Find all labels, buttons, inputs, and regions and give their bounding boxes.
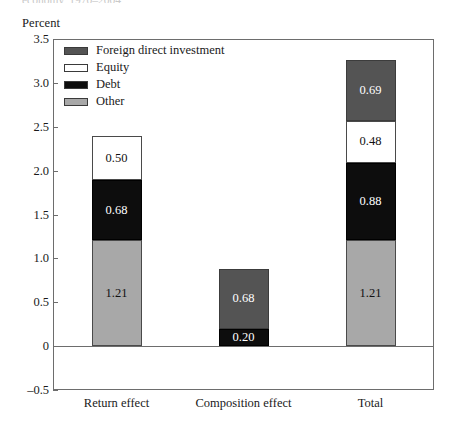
y-axis-tick-label: 1.0 [13,251,49,266]
bar-segment-debt[interactable]: 0.68 [92,180,142,240]
bar-segment-fdi[interactable]: 0.69 [346,60,396,121]
bar-segment-debt[interactable]: 0.20 [219,329,269,347]
legend-swatch-equity [64,64,88,72]
chart-legend: Foreign direct investmentEquityDebtOther [64,42,224,110]
legend-item[interactable]: Foreign direct investment [64,42,224,59]
bar-stack[interactable]: 0.200.68 [219,39,269,390]
legend-swatch-fdi [64,47,88,55]
y-axis-tick-label: 3.5 [13,32,49,47]
legend-item[interactable]: Debt [64,76,224,93]
bar-segment-value-label: 0.48 [360,135,382,148]
bar-segment-fdi[interactable]: 0.68 [219,269,269,329]
y-axis-tick-mark [53,390,58,391]
bar-segment-value-label: 1.21 [106,287,128,300]
bar-segment-value-label: 0.68 [106,204,128,217]
y-axis-tick-label: 1.5 [13,207,49,222]
bar-segment-value-label: 0.88 [360,195,382,208]
bar-segment-value-label: 0.50 [106,152,128,165]
bar-segment-value-label: 0.20 [233,331,255,344]
y-axis-tick-mark [53,258,58,259]
legend-item-label: Debt [96,77,120,92]
y-axis-tick-mark [53,83,58,84]
y-axis-tick-label: 2.0 [13,163,49,178]
bar-stack[interactable]: 1.210.880.480.69 [346,39,396,390]
legend-item-label: Other [96,94,124,109]
bar-segment-equity[interactable]: 0.50 [92,136,142,180]
y-axis-tick-mark [53,171,58,172]
y-axis-tick-label: 3.0 [13,75,49,90]
legend-item[interactable]: Other [64,93,224,110]
bar-segment-other[interactable]: 1.21 [92,240,142,346]
y-axis-tick-label: 2.5 [13,119,49,134]
y-axis-tick-mark [53,39,58,40]
bar-segment-value-label: 0.68 [233,292,255,305]
bar-segment-value-label: 1.21 [360,287,382,300]
y-axis-unit-label: Percent [22,16,60,31]
y-axis-tick-label: 0.5 [13,295,49,310]
legend-item[interactable]: Equity [64,59,224,76]
y-axis-tick-label: 0 [13,339,49,354]
bar-segment-other[interactable]: 1.21 [346,240,396,346]
legend-swatch-other [64,98,88,106]
legend-swatch-debt [64,81,88,89]
legend-item-label: Foreign direct investment [96,43,224,58]
y-axis-tick-mark [53,215,58,216]
y-axis-tick-mark [53,302,58,303]
cropped-title-remnant: economy, 1970–2004 [22,0,282,3]
y-axis-tick-mark [53,127,58,128]
bar-segment-equity[interactable]: 0.48 [346,121,396,163]
bar-segment-value-label: 0.69 [360,84,382,97]
legend-item-label: Equity [96,60,129,75]
x-axis-category-label: Total [286,396,450,411]
bar-segment-debt[interactable]: 0.88 [346,163,396,240]
